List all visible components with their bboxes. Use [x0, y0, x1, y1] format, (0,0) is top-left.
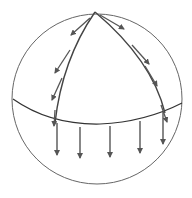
equator-line	[13, 99, 182, 124]
parallel-transport-diagram	[0, 0, 192, 198]
left-meridian-arrows	[52, 18, 90, 126]
arrow-icon	[55, 50, 70, 73]
equator-arrows	[57, 112, 163, 158]
arrow-icon	[54, 110, 55, 126]
arrow-icon	[145, 66, 157, 86]
arrow-icon	[71, 18, 90, 35]
right-meridian-arrows	[100, 15, 167, 122]
sphere-outline	[12, 14, 182, 184]
right-meridian	[95, 12, 165, 113]
left-meridian	[55, 12, 95, 123]
